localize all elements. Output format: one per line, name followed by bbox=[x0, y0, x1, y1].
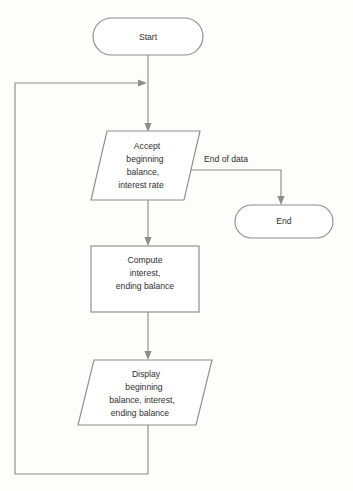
arrowhead-into-end bbox=[277, 196, 284, 205]
display-label-line-1: Display bbox=[132, 369, 161, 379]
edge-compute-to-display bbox=[144, 312, 151, 360]
flowchart-diagram: Start Accept beginning balance, interest… bbox=[0, 0, 353, 491]
compute-label-line-3: ending balance bbox=[116, 281, 175, 291]
edge-start-to-accept bbox=[144, 55, 151, 132]
start-label: Start bbox=[139, 32, 158, 42]
display-label-line-4: ending balance bbox=[111, 408, 170, 418]
accept-label-line-3: balance, bbox=[127, 167, 160, 177]
display-label-line-3: balance, interest, bbox=[109, 395, 174, 405]
node-start[interactable]: Start bbox=[93, 18, 203, 55]
arrowhead-loop-join bbox=[138, 79, 147, 86]
accept-label-line-4: interest rate bbox=[118, 180, 164, 190]
compute-label-line-1: Compute bbox=[128, 255, 163, 265]
end-label: End bbox=[276, 216, 292, 226]
node-compute[interactable]: Compute interest, ending balance bbox=[91, 246, 199, 312]
edge-accept-to-compute bbox=[144, 200, 151, 246]
node-display[interactable]: Display beginning balance, interest, end… bbox=[78, 360, 212, 425]
accept-label-line-1: Accept bbox=[134, 141, 161, 151]
flowchart-canvas: Start Accept beginning balance, interest… bbox=[0, 0, 353, 491]
edge-label-end-of-data: End of data bbox=[204, 154, 248, 164]
node-accept[interactable]: Accept beginning balance, interest rate bbox=[91, 131, 200, 200]
arrowhead-into-display bbox=[144, 351, 151, 360]
arrowhead-into-compute bbox=[144, 237, 151, 246]
edge-accept-to-end bbox=[191, 170, 285, 205]
compute-label-line-2: interest, bbox=[130, 268, 161, 278]
display-label-line-2: beginning bbox=[125, 382, 162, 392]
accept-label-line-2: beginning bbox=[126, 154, 163, 164]
node-end[interactable]: End bbox=[235, 205, 333, 238]
